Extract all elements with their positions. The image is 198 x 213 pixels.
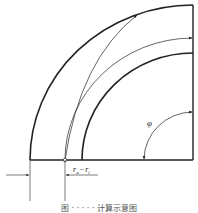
outer-reach-arrow xyxy=(65,15,137,160)
quarter-ring-diagram: φ ra−ri 图 · · · · · 计算示意图 xyxy=(0,0,198,213)
figure-caption: 图 · · · · · 计算示意图 xyxy=(61,203,137,213)
angle-label: φ xyxy=(147,118,152,128)
inner-arc xyxy=(82,53,193,160)
outer-arc xyxy=(30,5,193,160)
dimension-label: ra−ri xyxy=(73,165,90,175)
